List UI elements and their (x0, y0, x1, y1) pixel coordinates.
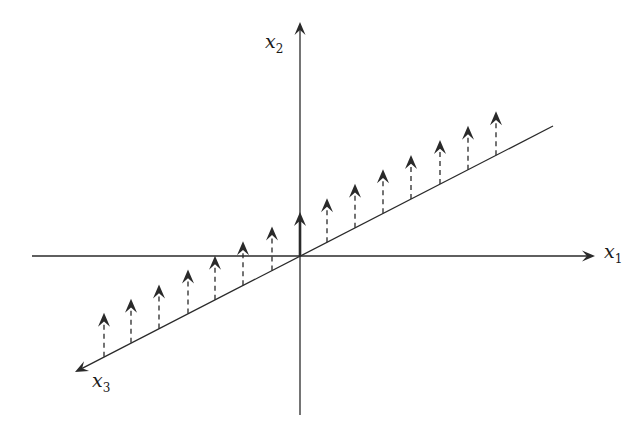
vector-2-arrow-icon (153, 284, 165, 298)
vector-0-arrow-icon (98, 313, 110, 327)
axis-x3-line (82, 126, 553, 368)
vector-5-arrow-icon (237, 241, 249, 255)
axis-x3-arrow-icon (75, 361, 89, 372)
vector-12-arrow-icon (434, 140, 446, 154)
axis-label-x1: x1 (604, 242, 622, 265)
vector-3-arrow-icon (182, 270, 194, 284)
vector-1-arrow-icon (125, 299, 137, 313)
axis-label-x2: x2 (265, 32, 283, 55)
vector-13-arrow-icon (462, 126, 474, 140)
axes-layer (32, 22, 595, 415)
vector-9-arrow-icon (349, 184, 361, 198)
vector-11-arrow-icon (405, 155, 417, 169)
vector-4-arrow-icon (209, 256, 221, 270)
vector-10-arrow-icon (377, 169, 389, 183)
vector-8-arrow-icon (321, 198, 333, 212)
axis-label-x3: x3 (92, 371, 110, 394)
vector-14-arrow-icon (490, 111, 502, 125)
vector-6-arrow-icon (266, 226, 278, 240)
